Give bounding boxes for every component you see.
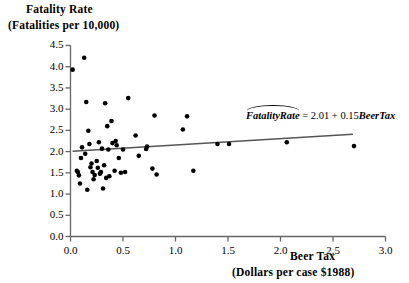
data-point [92,173,97,178]
data-point [91,177,96,182]
data-point [96,165,101,170]
data-points [70,55,356,192]
data-point [101,186,106,191]
data-point [185,114,190,119]
data-point [105,124,110,129]
data-point [94,159,99,164]
data-point [79,156,84,161]
data-point [136,154,141,159]
y-tick-label: 0.0 [38,230,64,242]
x-tick-label: 0.5 [108,244,138,256]
data-point [77,173,82,178]
data-point [99,170,104,175]
data-point [85,188,90,193]
data-point [84,100,89,105]
equation-dependent-variable-text: FatalityRate [246,110,300,121]
y-tick-label: 1.5 [38,166,64,178]
data-point [109,119,114,124]
data-point [285,140,290,145]
equation-dependent-variable: FatalityRate [246,110,300,121]
data-point [89,161,94,166]
x-tick-label: 1.0 [161,244,191,256]
data-point [87,142,92,147]
data-point [123,170,128,175]
regression-equation-annotation: FatalityRate = 2.01 + 0.15BeerTax [246,110,395,121]
data-point [227,142,232,147]
data-point [100,146,105,151]
data-point [152,113,157,118]
x-tick-label: 2.0 [266,244,296,256]
y-tick-label: 3.0 [38,102,64,114]
fatality-rate-beer-tax-scatter-chart: Fatality Rate (Fatalities per 10,000) Be… [0,0,409,283]
x-tick-label: 1.5 [213,244,243,256]
data-point [145,144,150,149]
data-point [70,67,75,72]
data-point [103,101,108,106]
data-point [82,55,87,60]
y-tick-label: 2.0 [38,145,64,157]
y-tick-label: 4.5 [38,38,64,50]
x-tick-label: 2.5 [318,244,348,256]
data-point [215,142,220,147]
data-point [119,171,124,176]
data-point [86,129,91,134]
y-tick-label: 3.5 [38,81,64,93]
data-point [191,168,196,173]
y-tick-label: 1.0 [38,187,64,199]
equation-independent-variable: BeerTax [359,110,395,121]
data-point [352,144,357,149]
data-point [121,147,126,152]
data-point [83,151,88,156]
data-point [97,140,102,145]
data-point [80,145,85,150]
data-point [150,166,155,171]
x-tick-label: 3.0 [371,244,401,256]
data-point [114,143,119,148]
data-point [126,96,131,101]
x-tick-label: 0.0 [56,244,86,256]
data-point [112,168,117,173]
y-tick-label: 0.5 [38,208,64,220]
y-tick-label: 4.0 [38,60,64,72]
equation-body: = 2.01 + 0.15 [300,110,359,121]
data-point [107,174,112,179]
data-point [102,163,107,168]
data-point [113,139,118,144]
data-point [106,147,111,152]
data-point [78,181,83,186]
data-point [181,127,186,132]
data-point [154,172,159,177]
data-point [117,156,122,161]
data-point [133,133,138,138]
y-tick-label: 2.5 [38,123,64,135]
